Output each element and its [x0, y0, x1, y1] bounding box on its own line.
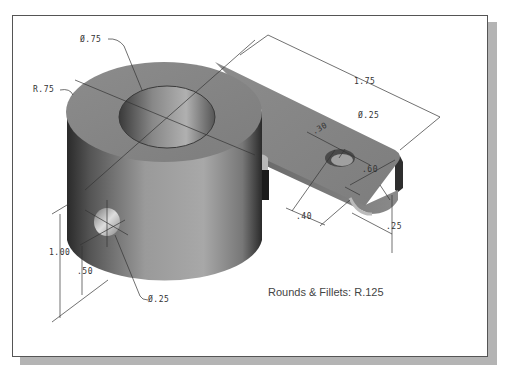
dim-arm-thickness: .25: [386, 222, 402, 231]
dim-arm-hole-to-end: .40: [296, 212, 312, 221]
part-drawing: Ø.75 R.75 1.75 Ø.25 .30 .60 .40 .25 1.00…: [0, 0, 506, 371]
dim-cylinder-height: 1.00: [49, 248, 70, 257]
dim-side-hole-diameter: Ø.25: [148, 294, 169, 304]
fillet-note: Rounds & Fillets: R.125: [268, 286, 384, 298]
dim-side-hole-height: .50: [77, 267, 93, 276]
dim-arm-width: .60: [362, 165, 378, 174]
dim-top-hole-diameter: Ø.75: [80, 34, 101, 44]
dim-outer-radius: R.75: [33, 85, 54, 94]
cylinder: [66, 62, 262, 280]
dim-arm-length: 1.75: [354, 77, 375, 86]
dim-arm-hole-diameter: Ø.25: [358, 110, 379, 120]
